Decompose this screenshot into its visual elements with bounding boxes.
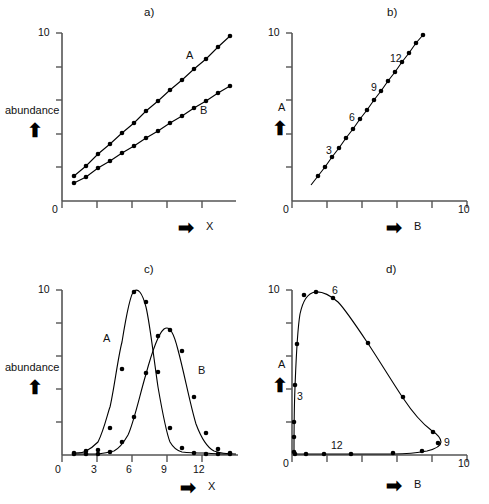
right-arrow-icon: ➡ (178, 218, 194, 237)
panel-a-title: a) (144, 7, 154, 18)
panel-c-title: c) (144, 264, 154, 275)
panel-b-time-label-12: 12 (390, 53, 402, 64)
panel-d-time-label-6: 6 (332, 285, 338, 296)
panel-b-title: b) (387, 7, 397, 18)
right-arrow-icon: ➡ (386, 476, 402, 495)
right-arrow-icon: ➡ (386, 218, 402, 237)
up-arrow-icon: ⬆ (27, 378, 43, 397)
panel-d-x-origin-label: 0 (283, 458, 289, 469)
panel-b-y-max-label: 10 (268, 27, 280, 38)
figure-four-panel-abundance: a) 10 0 abundance ⬆ ➡ X A B (0, 0, 489, 504)
panel-d-x-max-label: 10 (458, 458, 470, 469)
panel-d-loop-curve (294, 292, 441, 454)
panel-c-series-b-label: B (198, 365, 205, 376)
panel-a-series-b-label: B (200, 105, 207, 116)
panel-b-time-label-6: 6 (349, 112, 355, 123)
panel-c-x-axis-label: X (208, 481, 215, 492)
series-a-points (72, 290, 233, 457)
panel-d-loop-points (292, 290, 441, 457)
panel-d-x-axis-label: B (414, 479, 421, 490)
panel-d-time-label-3: 3 (297, 391, 303, 402)
panel-b-x-axis-label: B (414, 221, 421, 232)
series-a-curve (74, 290, 232, 454)
panel-b-x-max-label: 10 (458, 204, 470, 215)
panel-d-y-axis-label: A (278, 359, 285, 370)
panel-d-time-label-12: 12 (331, 440, 343, 451)
panel-b-x-origin-label: 0 (283, 204, 289, 215)
panel-c-y-max-label: 10 (38, 284, 50, 295)
panel-c: c) 10 abundance ⬆ 0 3 6 9 12 ➡ X A B (0, 252, 244, 504)
panel-b-time-label-3: 3 (326, 145, 332, 156)
panel-d-y-max-label: 10 (268, 284, 280, 295)
panel-b-y-axis-label: A (278, 102, 285, 113)
panel-d-title: d) (386, 264, 396, 275)
series-b-curve (74, 328, 236, 454)
panel-a-x-origin-label: 0 (52, 204, 58, 215)
panel-d-time-label-9: 9 (444, 437, 450, 448)
panel-d: d) 10 0 10 A ⬆ ➡ B 3 6 9 12 (245, 252, 489, 504)
panel-b: b) 10 0 10 A ⬆ ➡ B 3 6 9 12 (245, 0, 489, 252)
panel-b-time-label-9: 9 (371, 82, 377, 93)
panel-a-y-axis-label: abundance (5, 105, 59, 116)
right-arrow-icon: ➡ (180, 478, 196, 497)
panel-a-x-axis-label: X (206, 221, 213, 232)
panel-c-series-a-label: A (103, 333, 110, 344)
panel-c-x-tick-12: 12 (193, 464, 205, 475)
panel-c-x-tick-9: 9 (161, 464, 167, 475)
panel-c-x-tick-0: 0 (55, 464, 61, 475)
panel-c-y-axis-label: abundance (5, 362, 59, 373)
panel-a-series-a-label: A (186, 50, 193, 61)
up-arrow-icon: ⬆ (272, 119, 288, 138)
panel-a: a) 10 0 abundance ⬆ ➡ X A B (0, 0, 244, 252)
panel-c-x-tick-3: 3 (91, 464, 97, 475)
panel-a-y-max-label: 10 (38, 27, 50, 38)
up-arrow-icon: ⬆ (272, 376, 288, 395)
panel-c-x-tick-6: 6 (126, 464, 132, 475)
up-arrow-icon: ⬆ (27, 121, 43, 140)
